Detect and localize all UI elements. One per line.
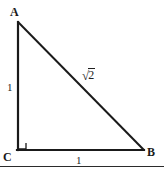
side-label-leg-horizontal: 1 bbox=[76, 155, 82, 166]
radical-expression: √2 bbox=[82, 68, 95, 82]
side-label-leg-vertical: 1 bbox=[7, 82, 13, 93]
vertex-label-a: A bbox=[10, 6, 19, 18]
right-angle-marker-icon bbox=[19, 143, 26, 149]
side-label-hypotenuse: √2 bbox=[82, 68, 95, 82]
triangle-drawing bbox=[0, 0, 164, 176]
hypotenuse-line bbox=[19, 23, 143, 149]
vertex-label-c: C bbox=[3, 151, 12, 163]
bottom-divider bbox=[0, 166, 164, 167]
right-triangle-figure: A B C 1 1 √2 bbox=[0, 0, 164, 176]
vertex-label-b: B bbox=[147, 146, 155, 158]
radicand-value: 2 bbox=[88, 68, 95, 81]
